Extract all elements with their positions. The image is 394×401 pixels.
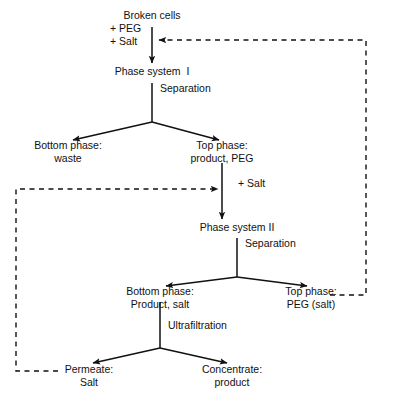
- node-phase-system-2: Phase system II: [200, 221, 275, 234]
- edge-bottom2-to-conc: [160, 348, 227, 363]
- edge-bottom2-to-permeate: [93, 348, 160, 363]
- edge-ps1-to-top1: [152, 122, 219, 140]
- node-phase-system-1: Phase system I: [115, 65, 190, 78]
- node-additive-salt: + Salt: [238, 177, 265, 190]
- flowchart-canvas: [0, 0, 394, 401]
- node-ultrafiltration: Ultrafiltration: [168, 319, 227, 332]
- node-concentrate: Concentrate: product: [202, 363, 262, 388]
- node-separation-2: Separation: [245, 237, 296, 250]
- edge-ps1-to-bottom1: [73, 122, 152, 140]
- node-separation-1: Separation: [160, 82, 211, 95]
- node-top-phase-2: Top phase: PEG (salt): [285, 285, 336, 310]
- edge-recycle-peg: [159, 40, 366, 295]
- node-broken-cells: Broken cells: [123, 9, 180, 22]
- node-additive-peg-salt: + PEG + Salt: [110, 22, 141, 47]
- node-bottom-phase-1: Bottom phase: waste: [34, 139, 102, 164]
- node-bottom-phase-2: Bottom phase: Product, salt: [126, 285, 194, 310]
- node-permeate: Permeate: Salt: [65, 363, 113, 388]
- edge-recycle-salt: [16, 189, 218, 371]
- node-top-phase-1: Top phase: product, PEG: [190, 139, 253, 164]
